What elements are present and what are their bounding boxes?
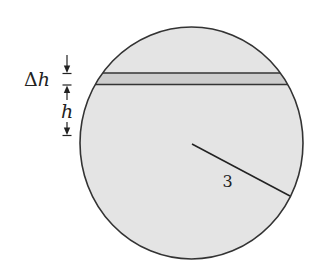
delta-h-label: Δh bbox=[24, 68, 50, 90]
sphere-cross-section bbox=[80, 27, 303, 259]
arrow-down-icon bbox=[64, 66, 70, 74]
radius-label: 3 bbox=[223, 172, 233, 191]
arrow-down-icon bbox=[64, 128, 70, 136]
sphere-slab-diagram: 3 Δh h bbox=[0, 0, 312, 270]
delta-h-variable: h bbox=[38, 68, 50, 90]
arrow-up-icon bbox=[64, 86, 70, 94]
delta-symbol: Δ bbox=[24, 68, 38, 90]
h-label: h bbox=[61, 100, 73, 122]
h-dimension-bottom bbox=[63, 122, 72, 136]
delta-h-dimension bbox=[63, 55, 72, 100]
